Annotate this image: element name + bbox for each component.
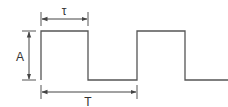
pulse-width-dimension: τ xyxy=(41,4,88,26)
period-label: T xyxy=(84,95,92,107)
period-dimension: T xyxy=(41,85,137,107)
square-wave-diagram: τ A T xyxy=(0,0,228,107)
amplitude-label: A xyxy=(16,50,24,64)
square-wave-signal xyxy=(41,31,228,80)
amplitude-dimension: A xyxy=(16,31,36,80)
pulse-width-label: τ xyxy=(62,4,67,18)
